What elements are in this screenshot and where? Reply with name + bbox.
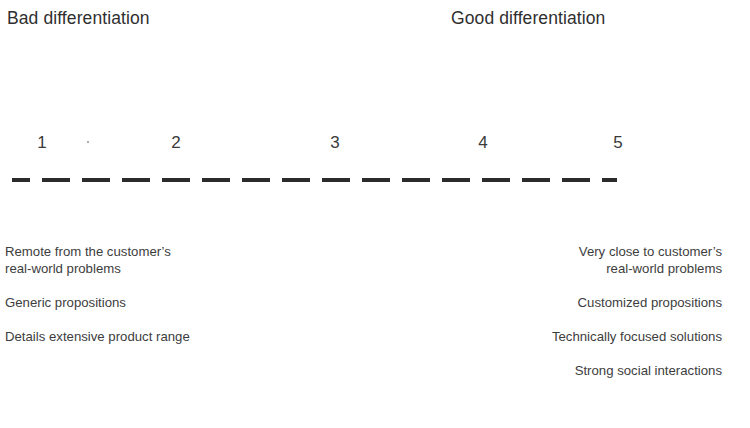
good-differentiation-descriptor-list: Very close to customer’s real-world prob…	[372, 243, 722, 396]
scale-line-dash	[442, 178, 470, 182]
bad-descriptor-item-1: Remote from the customer’s real-world pr…	[5, 243, 190, 277]
scale-line-dash	[202, 178, 230, 182]
differentiation-scale-diagram: Bad differentiation Good differentiation…	[0, 0, 750, 428]
scale-number-2: 2	[166, 132, 186, 154]
scale-line-dash	[522, 178, 550, 182]
bad-descriptor-item-2: Generic propositions	[5, 294, 190, 311]
bad-differentiation-descriptor-list: Remote from the customer’s real-world pr…	[5, 243, 190, 362]
scale-line-dash	[12, 178, 30, 182]
scale-line-dash	[402, 178, 430, 182]
scale-line-dash	[242, 178, 270, 182]
scale-line-dash	[42, 178, 70, 182]
scale-line-dash	[482, 178, 510, 182]
scale-number-5: 5	[608, 132, 628, 154]
good-descriptor-item-4: Strong social interactions	[372, 362, 722, 379]
scale-line-dash	[162, 178, 190, 182]
good-descriptor-item-1: Very close to customer’s real-world prob…	[372, 243, 722, 277]
bad-descriptor-item-3: Details extensive product range	[5, 328, 190, 345]
stray-speck-mark	[87, 141, 89, 143]
scale-line-dash	[122, 178, 150, 182]
scale-line-dash	[322, 178, 350, 182]
scale-line-dash	[602, 178, 617, 182]
scale-number-row: 12345	[0, 132, 750, 158]
scale-number-4: 4	[473, 132, 493, 154]
scale-line-dash	[562, 178, 590, 182]
scale-line-dash	[282, 178, 310, 182]
good-descriptor-item-2: Customized propositions	[372, 294, 722, 311]
scale-number-1: 1	[32, 132, 52, 154]
scale-line-dash	[82, 178, 110, 182]
header-bad-differentiation: Bad differentiation	[7, 8, 150, 28]
header-good-differentiation: Good differentiation	[451, 8, 605, 28]
good-descriptor-item-3: Technically focused solutions	[372, 328, 722, 345]
scale-line-dash	[362, 178, 390, 182]
dashed-scale-line	[12, 178, 652, 183]
scale-number-3: 3	[325, 132, 345, 154]
